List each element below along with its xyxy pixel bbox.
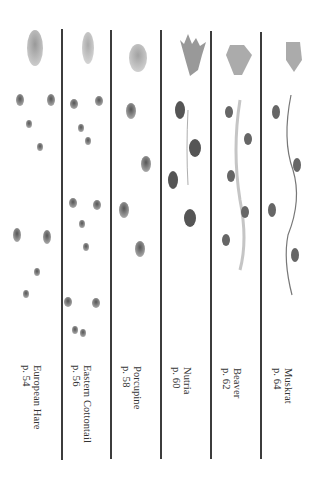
species-name: European Hare [32,365,43,430]
species-name: Porcupine [132,366,143,409]
muskrat-tracks [268,42,302,295]
page-reference: p. 56 [71,365,82,443]
porcupine-tracks [119,44,151,257]
column-divider [61,29,63,460]
column-label-eastern-cottontail: Eastern Cottontail p. 56 [71,365,93,443]
column-divider [210,31,212,459]
species-name: Muskrat [283,368,294,404]
column-label-nutria: Nutria p. 60 [171,367,193,394]
page-reference: p. 54 [21,365,32,430]
track-illustrations [0,0,323,477]
column-label-european-hare: European Hare p. 54 [21,365,43,430]
column-label-muskrat: Muskrat p. 64 [272,368,294,404]
column-divider [160,30,162,459]
species-name: Nutria [182,367,193,394]
column-divider [260,32,262,459]
nutria-tracks [168,34,206,227]
eastern-cottontail-tracks [64,32,103,337]
column-divider [110,30,112,459]
page-reference: p. 64 [272,368,283,404]
species-name: Beaver [232,368,243,398]
page-reference: p. 62 [221,368,232,398]
column-label-beaver: Beaver p. 62 [221,368,243,398]
page-reference: p. 60 [171,367,182,394]
species-name: Eastern Cottontail [82,365,93,443]
beaver-tracks [222,45,252,270]
european-hare-tracks [13,30,55,298]
column-label-porcupine: Porcupine p. 58 [121,366,143,409]
page-reference: p. 58 [121,366,132,409]
track-comparison-page: European Hare p. 54 Eastern Cottontail p… [0,0,323,477]
